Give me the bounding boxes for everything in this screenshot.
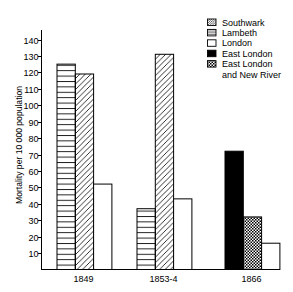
- y-tick-label: 110: [24, 85, 38, 95]
- bar-1849-london: [94, 184, 112, 269]
- legend-label: Southwark: [222, 18, 265, 28]
- y-tick-label: 10: [28, 249, 38, 259]
- y-tick-label: 60: [28, 167, 38, 177]
- y-tick-label: 70: [28, 151, 38, 161]
- bar-1866-london: [262, 243, 280, 269]
- legend-label: Lambeth: [222, 28, 257, 38]
- y-tick-label: 40: [28, 200, 38, 210]
- legend-label: East London: [222, 49, 273, 59]
- y-tick-label: 30: [28, 216, 38, 226]
- y-tick-label: 50: [28, 183, 38, 193]
- y-tick-label: 20: [28, 233, 38, 243]
- y-axis-title: Mortality per 10 000 population: [14, 86, 24, 204]
- legend-swatch-london: [208, 40, 217, 47]
- legend-swatch-east-london-and-new-river: [208, 61, 217, 68]
- mortality-bar-chart: 1020304050607080901001101201301401849185…: [0, 0, 293, 292]
- x-tick-label: 1849: [74, 274, 94, 284]
- bar-1866-east-london: [225, 151, 243, 269]
- legend-swatch-lambeth: [208, 29, 217, 36]
- y-tick-label: 130: [23, 52, 38, 62]
- bar-1853-4-london: [174, 199, 192, 270]
- legend-swatch-east-london: [208, 50, 217, 57]
- y-tick-label: 140: [23, 36, 38, 46]
- bar-1866-east-london-and-new-river: [243, 217, 261, 270]
- bar-1849-lambeth: [57, 64, 75, 269]
- bar-1853-4-southwark: [155, 54, 173, 269]
- legend-label: East London: [222, 59, 273, 69]
- bars: [57, 54, 280, 269]
- x-tick-label: 1866: [242, 274, 262, 284]
- y-tick-label: 100: [23, 101, 38, 111]
- bar-1853-4-lambeth: [137, 209, 155, 270]
- y-tick-label: 80: [28, 134, 38, 144]
- legend-label: and New River: [222, 70, 281, 80]
- bar-1849-southwark: [75, 74, 93, 270]
- legend: SouthwarkLambethLondonEast LondonEast Lo…: [208, 18, 282, 80]
- x-tick-label: 1853-4: [150, 274, 178, 284]
- y-tick-label: 90: [28, 118, 38, 128]
- legend-label: London: [222, 38, 252, 48]
- legend-swatch-southwark: [208, 19, 217, 26]
- y-tick-label: 120: [23, 68, 38, 78]
